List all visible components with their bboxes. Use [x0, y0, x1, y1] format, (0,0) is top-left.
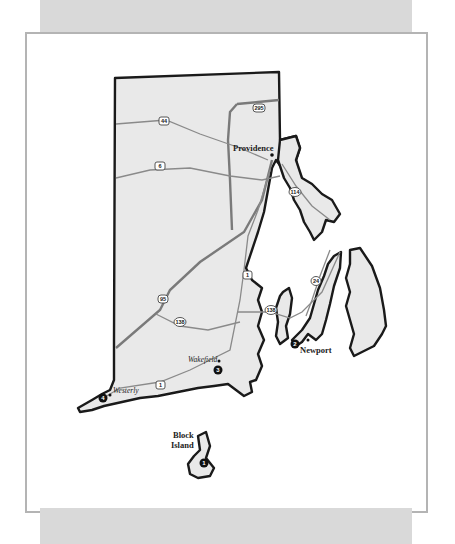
wakefield-dot [218, 360, 221, 363]
providence-label: Providence [233, 143, 274, 153]
providence-dot [270, 153, 274, 157]
newport-dot [307, 339, 310, 342]
svg-text:6: 6 [158, 163, 161, 169]
marker-1-block-island[interactable]: 1 [200, 459, 209, 468]
east-bay-land [278, 136, 340, 240]
route-44-shield: 44 [159, 117, 169, 125]
rhode-island-map: 295 44 6 95 1 1 114 24 138 138 Providenc… [0, 0, 455, 544]
marker-3-wakefield[interactable]: 3 [214, 366, 223, 375]
svg-text:114: 114 [291, 189, 301, 195]
route-138-shield-west: 138 [174, 318, 186, 327]
route-138-shield-east: 138 [265, 306, 277, 315]
block-island-label-line2: Island [171, 440, 194, 450]
sakonnet-land [346, 248, 386, 356]
wakefield-label: Wakefield [188, 355, 218, 364]
block-island-label-line1: Block [173, 430, 194, 440]
route-1-shield-north: 1 [243, 271, 252, 279]
route-95-shield: 95 [158, 295, 168, 303]
svg-text:24: 24 [313, 278, 320, 284]
westerly-label: Westerly [113, 386, 139, 395]
svg-text:44: 44 [161, 118, 168, 124]
westerly-dot [109, 394, 112, 397]
svg-text:1: 1 [246, 272, 249, 278]
svg-text:138: 138 [266, 307, 275, 313]
svg-text:138: 138 [175, 319, 184, 325]
svg-text:95: 95 [160, 296, 166, 302]
marker-2-newport[interactable]: 2 [291, 340, 300, 349]
route-295-shield: 295 [253, 104, 265, 112]
route-1-shield-south: 1 [156, 381, 165, 389]
svg-text:295: 295 [254, 105, 263, 111]
svg-text:1: 1 [159, 382, 162, 388]
route-24-shield: 24 [311, 277, 321, 286]
newport-label: Newport [300, 345, 332, 355]
route-114-shield: 114 [289, 188, 301, 197]
marker-4-westerly[interactable]: 4 [99, 394, 108, 403]
route-6-shield: 6 [155, 162, 165, 170]
